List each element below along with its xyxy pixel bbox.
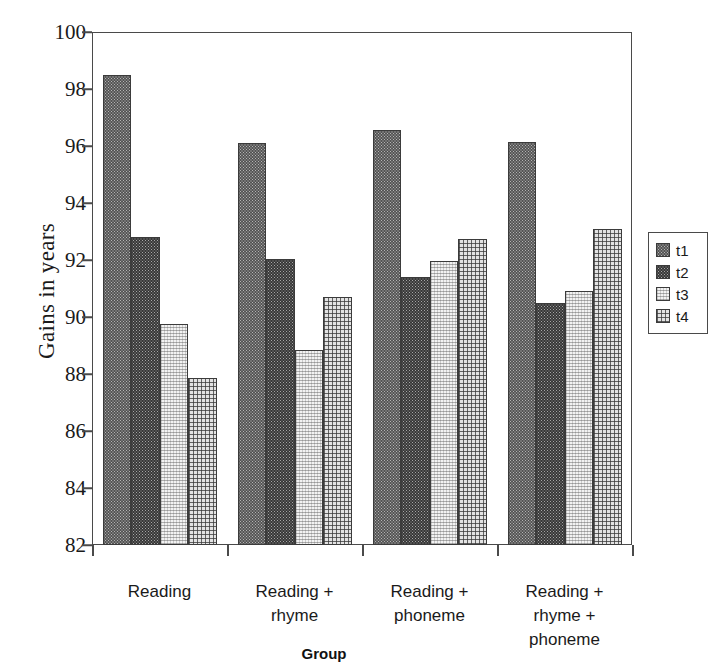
bar-group	[227, 32, 362, 545]
y-tick-mark	[82, 145, 92, 147]
y-tick-label: 94	[12, 191, 86, 216]
x-axis-label-line: phoneme	[355, 604, 505, 628]
x-axis-label-line: Reading +	[355, 580, 505, 604]
legend-swatch-t3	[656, 287, 670, 301]
x-axis-label-line: Reading +	[220, 580, 370, 604]
y-tick-mark	[82, 88, 92, 90]
y-tick-label: 86	[12, 419, 86, 444]
x-axis-label-line: Reading	[85, 580, 235, 604]
y-tick-label: 100	[12, 20, 86, 45]
x-tick-mark	[497, 545, 499, 556]
x-tick-mark	[92, 545, 94, 556]
bar-t4-3[interactable]	[458, 239, 487, 545]
y-tick-mark	[82, 31, 92, 33]
bars-layer	[92, 32, 632, 545]
x-axis-label: Reading +rhyme	[220, 580, 370, 628]
legend-label-t2: t2	[676, 264, 689, 281]
bar-t2-1[interactable]	[131, 237, 160, 545]
legend-swatch-t4	[656, 309, 670, 323]
bar-t3-3[interactable]	[430, 261, 459, 545]
y-tick-label: 92	[12, 248, 86, 273]
y-tick-label: 90	[12, 305, 86, 330]
x-axis-label-line: Reading +	[490, 580, 640, 604]
y-tick-mark	[82, 487, 92, 489]
bar-t4-2[interactable]	[323, 297, 352, 545]
bar-t2-3[interactable]	[401, 277, 430, 545]
x-axis-label-line: rhyme +	[490, 604, 640, 628]
legend-swatch-t1	[656, 243, 670, 257]
y-tick-label: 98	[12, 77, 86, 102]
x-axis-label: Reading	[85, 580, 235, 604]
bar-group	[362, 32, 497, 545]
bar-t3-1[interactable]	[160, 324, 189, 545]
y-tick-mark	[82, 373, 92, 375]
legend-item-t3[interactable]: t3	[656, 283, 707, 305]
bar-t1-4[interactable]	[508, 142, 537, 545]
y-tick-label: 96	[12, 134, 86, 159]
bar-group	[497, 32, 632, 545]
legend-label-t4: t4	[676, 308, 689, 325]
x-tick-mark	[632, 545, 634, 556]
x-axis-label: Reading +phoneme	[355, 580, 505, 628]
bar-t1-3[interactable]	[373, 130, 402, 545]
legend-item-t1[interactable]: t1	[656, 239, 707, 261]
y-tick-label: 82	[12, 533, 86, 558]
bar-t4-1[interactable]	[188, 378, 217, 545]
bar-t2-2[interactable]	[266, 259, 295, 545]
bar-t4-4[interactable]	[593, 229, 622, 545]
bar-t1-1[interactable]	[103, 75, 132, 545]
bar-t3-4[interactable]	[565, 291, 594, 545]
bar-t3-2[interactable]	[295, 350, 324, 545]
legend-swatch-t2	[656, 265, 670, 279]
legend-label-t3: t3	[676, 286, 689, 303]
x-tick-mark	[362, 545, 364, 556]
x-axis-label-line: rhyme	[220, 604, 370, 628]
bar-t1-2[interactable]	[238, 143, 267, 545]
y-tick-mark	[82, 316, 92, 318]
x-axis-title-text: Group	[302, 645, 347, 662]
y-tick-mark	[82, 202, 92, 204]
bar-group	[92, 32, 227, 545]
legend: t1t2t3t4	[648, 232, 708, 334]
y-tick-label: 84	[12, 476, 86, 501]
bar-t2-4[interactable]	[536, 303, 565, 545]
y-tick-label: 88	[12, 362, 86, 387]
x-tick-mark	[227, 545, 229, 556]
x-axis-label: Reading +rhyme +phoneme	[490, 580, 640, 652]
y-tick-mark	[82, 430, 92, 432]
legend-label-t1: t1	[676, 242, 689, 259]
x-axis-title: Group	[0, 645, 700, 662]
y-tick-mark	[82, 259, 92, 261]
legend-item-t2[interactable]: t2	[656, 261, 707, 283]
legend-item-t4[interactable]: t4	[656, 305, 707, 327]
y-tick-mark	[82, 544, 92, 546]
